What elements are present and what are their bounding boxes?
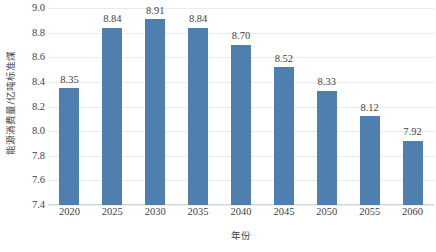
bar-slot: 8.84: [177, 8, 220, 205]
plot-area: 8.358.848.918.848.708.528.338.127.92: [48, 8, 434, 205]
y-axis-title-label: 能源消费量/亿吨标准煤: [3, 51, 17, 154]
x-axis-tick-label: 2060: [402, 207, 423, 218]
bar-value-label: 8.91: [146, 6, 164, 17]
bar-slot: 8.91: [134, 8, 177, 205]
y-axis-tick-label: 8.8: [32, 27, 45, 38]
y-axis-tick-label: 7.8: [32, 151, 45, 162]
bar-value-label: 8.12: [360, 103, 378, 114]
bar-slot: 7.92: [391, 8, 434, 205]
y-axis-tick-label: 7.6: [32, 175, 45, 186]
bar-value-label: 8.35: [60, 75, 78, 86]
bar[interactable]: [274, 67, 294, 205]
bar-value-label: 8.84: [103, 14, 121, 25]
y-axis-tick-label: 7.4: [32, 200, 45, 211]
bar-series: 8.358.848.918.848.708.528.338.127.92: [48, 8, 434, 205]
bar[interactable]: [188, 28, 208, 205]
bar[interactable]: [59, 88, 79, 205]
x-axis-tick-label: 2050: [316, 207, 337, 218]
y-axis-tick-label: 8.4: [32, 77, 45, 88]
bar[interactable]: [102, 28, 122, 205]
x-axis-tick-label: 2025: [102, 207, 123, 218]
x-axis-tick-label: 2035: [188, 207, 209, 218]
y-axis-tick-labels: 9.08.88.68.48.28.07.87.67.4: [20, 0, 48, 205]
bar-value-label: 8.33: [318, 77, 336, 88]
bar-slot: 8.52: [262, 8, 305, 205]
bar[interactable]: [403, 141, 423, 205]
bar[interactable]: [317, 91, 337, 206]
x-axis-tick-label: 2020: [59, 207, 80, 218]
bar[interactable]: [145, 19, 165, 205]
x-axis-tick-label: 2030: [145, 207, 166, 218]
bar-slot: 8.35: [48, 8, 91, 205]
x-axis-tick-label: 2045: [273, 207, 294, 218]
bar-value-label: 8.52: [275, 54, 293, 65]
bar-slot: 8.33: [305, 8, 348, 205]
bar-slot: 8.84: [91, 8, 134, 205]
bar[interactable]: [360, 116, 380, 205]
bar-slot: 8.12: [348, 8, 391, 205]
bar-value-label: 8.84: [189, 14, 207, 25]
y-axis-tick-label: 8.6: [32, 52, 45, 63]
x-axis-tick-labels: 202020252030203520402045205020552060: [48, 207, 434, 223]
x-axis-title: 年份: [48, 228, 434, 242]
bar-chart: 能源消费量/亿吨标准煤 9.08.88.68.48.28.07.87.67.4 …: [0, 0, 436, 252]
bar-value-label: 7.92: [403, 127, 421, 138]
y-axis-tick-label: 8.2: [32, 101, 45, 112]
x-axis-tick-label: 2040: [231, 207, 252, 218]
bar-slot: 8.70: [220, 8, 263, 205]
y-axis-title: 能源消费量/亿吨标准煤: [0, 0, 20, 205]
bar[interactable]: [231, 45, 251, 205]
y-axis-tick-label: 8.0: [32, 126, 45, 137]
bar-value-label: 8.70: [232, 31, 250, 42]
y-axis-tick-label: 9.0: [32, 3, 45, 14]
x-axis-tick-label: 2055: [359, 207, 380, 218]
